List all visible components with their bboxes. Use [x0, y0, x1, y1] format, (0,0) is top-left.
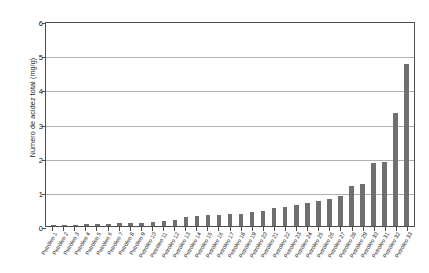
bar — [128, 223, 133, 226]
bar-slot — [81, 23, 92, 226]
bar — [272, 208, 277, 226]
bar-slot — [390, 23, 401, 226]
x-label-slot: Petróleo 33 — [402, 231, 413, 273]
bar-slot — [258, 23, 269, 226]
bar — [305, 203, 310, 226]
bar — [349, 186, 354, 226]
bar-slot — [158, 23, 169, 226]
bar — [338, 196, 343, 226]
bar-slot — [59, 23, 70, 226]
bar-slot — [247, 23, 258, 226]
bar — [382, 162, 387, 226]
bar — [316, 201, 321, 226]
bar-slot — [125, 23, 136, 226]
bar-slot — [103, 23, 114, 226]
bar-slot — [401, 23, 412, 226]
bar-slot — [346, 23, 357, 226]
bar-slot — [92, 23, 103, 226]
bar — [239, 214, 244, 226]
plot-area: 0123456 — [45, 22, 415, 227]
bar-slot — [70, 23, 81, 226]
bar — [228, 214, 233, 226]
bar-slot — [191, 23, 202, 226]
bar-slot — [147, 23, 158, 226]
bar-slot — [169, 23, 180, 226]
bar-series — [46, 23, 414, 226]
bar — [404, 64, 409, 226]
bar — [139, 223, 144, 226]
bar — [84, 224, 89, 226]
bar — [106, 224, 111, 226]
bar — [73, 225, 78, 226]
bar — [250, 212, 255, 226]
bar-slot — [324, 23, 335, 226]
bar-slot — [236, 23, 247, 226]
bar — [95, 224, 100, 226]
bar-slot — [269, 23, 280, 226]
bar-slot — [136, 23, 147, 226]
bar-slot — [313, 23, 324, 226]
bar-slot — [291, 23, 302, 226]
bar — [371, 163, 376, 226]
y-axis-title: Número de acidez total (mg/g) — [28, 13, 37, 203]
bar — [217, 215, 222, 226]
bar-slot — [357, 23, 368, 226]
bar-slot — [280, 23, 291, 226]
bar — [51, 225, 56, 226]
bar — [151, 222, 156, 226]
bar — [117, 223, 122, 226]
bar-slot — [335, 23, 346, 226]
x-axis-labels: Petróleo 1Petróleo 2Petróleo 3Petróleo 4… — [45, 231, 415, 273]
bar — [162, 221, 167, 226]
bar — [173, 220, 178, 226]
bar-slot — [48, 23, 59, 226]
bar-slot — [302, 23, 313, 226]
bar — [261, 211, 266, 226]
chart-figure: Número de acidez total (mg/g) 0123456 Pe… — [0, 0, 429, 273]
bar — [393, 113, 398, 226]
bar — [294, 205, 299, 226]
bar — [62, 225, 67, 226]
bar-slot — [114, 23, 125, 226]
bar-slot — [213, 23, 224, 226]
bar — [283, 207, 288, 226]
bar-slot — [202, 23, 213, 226]
bar-slot — [379, 23, 390, 226]
bar — [327, 199, 332, 226]
bar — [360, 184, 365, 226]
bar-slot — [180, 23, 191, 226]
bar — [206, 215, 211, 226]
bar-slot — [368, 23, 379, 226]
bar — [184, 217, 189, 226]
bar — [195, 216, 200, 226]
bar-slot — [225, 23, 236, 226]
